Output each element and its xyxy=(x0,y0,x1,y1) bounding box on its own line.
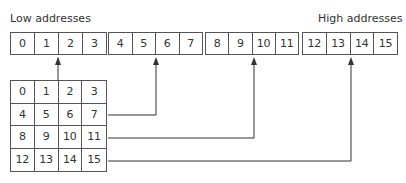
arrowhead-icon xyxy=(348,57,354,65)
arrowhead-icon xyxy=(55,57,61,65)
mapping-arrows xyxy=(0,0,406,183)
arrow-row-2 xyxy=(108,60,254,138)
arrow-row-3 xyxy=(108,60,351,161)
arrow-row-1 xyxy=(108,60,156,115)
arrowhead-icon xyxy=(251,57,257,65)
arrowhead-icon xyxy=(153,57,159,65)
